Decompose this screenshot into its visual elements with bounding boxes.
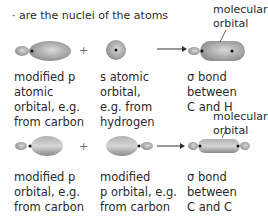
plus-sign: + — [79, 140, 88, 153]
arrow-icon — [157, 45, 187, 53]
reactant2-label: s atomic orbital, e.g. from hydrogen — [100, 70, 155, 130]
annotation-leader-line — [218, 30, 228, 44]
reactant1-label: modified p orbital, e.g. from carbon — [14, 170, 84, 215]
legend-text: · are the nuclei of the atoms — [12, 9, 168, 22]
s-orbital-icon — [106, 40, 130, 64]
p-orbital-reversed-icon — [105, 135, 155, 157]
p-orbital-icon — [14, 135, 64, 157]
sigma-bond-ch-icon — [187, 40, 247, 64]
arrow-icon — [157, 142, 185, 150]
product-label: σ bond between C and H — [187, 70, 237, 115]
plus-sign: + — [79, 44, 88, 57]
molecular-orbital-annotation: molecular orbital — [213, 110, 268, 138]
molecular-orbital-annotation: molecular orbital — [213, 3, 268, 31]
product-label: σ bond between C and C — [187, 170, 237, 215]
sigma-bond-cc-icon — [187, 137, 251, 157]
reactant1-label: modified p atomic orbital, e.g. from car… — [14, 70, 84, 130]
reactant2-label: modified p orbital, e.g. from carbon — [100, 170, 177, 215]
p-orbital-icon — [14, 40, 74, 62]
